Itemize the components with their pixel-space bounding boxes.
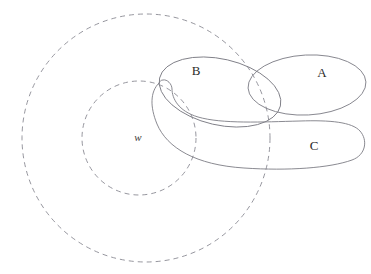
set-a-shape-group bbox=[247, 52, 368, 118]
set-a-ellipse bbox=[247, 52, 368, 118]
set-b-label: B bbox=[192, 63, 201, 78]
outer-universe-circle bbox=[22, 14, 270, 262]
region-labels-group: B A C w bbox=[134, 63, 327, 153]
diagram-canvas: B A C w bbox=[0, 0, 371, 274]
set-c-label: C bbox=[310, 138, 319, 153]
dashed-universe-group bbox=[22, 14, 270, 262]
set-a-label: A bbox=[317, 65, 327, 80]
universe-w-label: w bbox=[134, 131, 142, 143]
venn-diagram-svg: B A C w bbox=[0, 0, 371, 274]
